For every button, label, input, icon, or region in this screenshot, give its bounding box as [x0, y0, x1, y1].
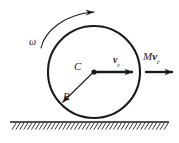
hatch-stroke: [51, 123, 55, 130]
hatch-stroke: [156, 123, 160, 130]
momentum-label: Mvc: [143, 51, 160, 65]
hatch-stroke: [59, 123, 63, 130]
velocity-subscript: c: [117, 61, 120, 68]
hatch-stroke: [12, 123, 16, 130]
hatch-stroke: [152, 123, 156, 130]
hatch-stroke: [55, 123, 59, 130]
hatch-stroke: [20, 123, 24, 130]
velocity-label: vc: [113, 55, 120, 67]
angular-velocity-label: ω: [29, 37, 36, 47]
hatch-stroke: [102, 123, 106, 130]
hatch-stroke: [74, 123, 78, 130]
hatch-stroke: [24, 123, 28, 130]
hatch-stroke: [39, 123, 43, 130]
hatch-stroke: [98, 123, 102, 130]
hatch-stroke: [117, 123, 121, 130]
rotation-arc-arrow-icon: [41, 12, 94, 48]
hatch-stroke: [43, 123, 47, 130]
hatch-stroke: [164, 123, 168, 130]
hatch-stroke: [149, 123, 153, 130]
diagram-canvas: [0, 0, 179, 143]
hatch-stroke: [82, 123, 86, 130]
center-label: C: [74, 61, 81, 72]
radius-label: R: [63, 91, 70, 102]
center-label-text: C: [74, 60, 81, 72]
ground-hatching-icon: [12, 123, 168, 130]
hatch-stroke: [125, 123, 129, 130]
momentum-subscript: c: [157, 58, 160, 65]
center-point-icon: [91, 69, 96, 74]
hatch-stroke: [113, 123, 117, 130]
hatch-stroke: [160, 123, 164, 130]
hatch-stroke: [129, 123, 133, 130]
hatch-stroke: [67, 123, 71, 130]
radius-label-text: R: [63, 90, 70, 102]
hatch-stroke: [63, 123, 67, 130]
hatch-stroke: [47, 123, 51, 130]
hatch-stroke: [71, 123, 75, 130]
hatch-stroke: [86, 123, 90, 130]
hatch-stroke: [121, 123, 125, 130]
hatch-stroke: [145, 123, 149, 130]
hatch-stroke: [35, 123, 39, 130]
hatch-stroke: [90, 123, 94, 130]
hatch-stroke: [28, 123, 32, 130]
hatch-stroke: [137, 123, 141, 130]
momentum-mass-symbol: M: [143, 50, 152, 62]
hatch-stroke: [133, 123, 137, 130]
hatch-stroke: [141, 123, 145, 130]
hatch-stroke: [106, 123, 110, 130]
hatch-stroke: [94, 123, 98, 130]
hatch-stroke: [110, 123, 114, 130]
hatch-stroke: [16, 123, 20, 130]
physics-diagram-figure: ω C R vc Mvc: [0, 0, 179, 143]
hatch-stroke: [32, 123, 36, 130]
hatch-stroke: [78, 123, 82, 130]
